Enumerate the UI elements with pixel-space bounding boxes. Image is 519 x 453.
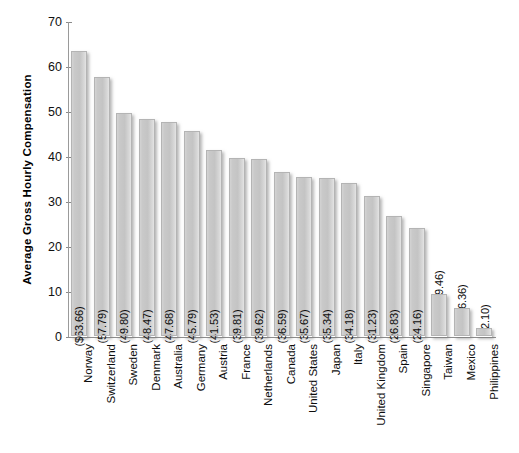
- bar[interactable]: (57.79): [94, 77, 110, 337]
- bar-value-label: (36.59): [276, 309, 287, 343]
- bar-slot: (35.67): [293, 22, 315, 337]
- bar[interactable]: (31.23): [364, 196, 380, 337]
- y-axis-tick-label: 0: [55, 330, 66, 343]
- bar[interactable]: (45.79): [184, 131, 200, 337]
- bar[interactable]: (26.83): [386, 216, 402, 337]
- bar-slot: (41.53): [203, 22, 225, 337]
- bar-value-label: (34.18): [344, 309, 355, 343]
- bar[interactable]: (35.67): [296, 177, 312, 338]
- x-axis-tick: Singapore: [406, 341, 428, 451]
- y-axis-tick-label: 30: [48, 195, 66, 208]
- bar-slot: (6.36): [451, 22, 473, 337]
- x-axis-tick: Australia: [158, 341, 180, 451]
- bar[interactable]: (24.16): [409, 228, 425, 337]
- plot-area: ($63.66)(57.79)(49.80)(48.47)(47.68)(45.…: [68, 22, 496, 337]
- bar-value-label: (31.23): [366, 309, 377, 343]
- bar-value-label: (45.79): [186, 309, 197, 343]
- bar-value-label: (48.47): [141, 309, 152, 343]
- x-axis-tick: Austria: [203, 341, 225, 451]
- bar-slot: (36.59): [271, 22, 293, 337]
- bar[interactable]: (36.59): [274, 172, 290, 337]
- x-axis-tick: Sweden: [113, 341, 135, 451]
- bar[interactable]: [431, 294, 447, 337]
- bar-value-label: (49.80): [119, 309, 130, 343]
- y-axis-tick-label: 20: [48, 240, 66, 253]
- y-axis-tick-label: 50: [48, 105, 66, 118]
- y-axis-tick-label: 10: [48, 285, 66, 298]
- y-axis-tick-group: 706050403020100: [0, 0, 72, 453]
- bar[interactable]: (41.53): [206, 150, 222, 337]
- bar-value-label: (24.16): [411, 309, 422, 343]
- bar-slot: ($63.66): [68, 22, 90, 337]
- x-axis-tick: Philippines: [473, 341, 495, 451]
- bar-slot: (24.16): [406, 22, 428, 337]
- bar-value-label: (57.79): [96, 309, 107, 343]
- x-axis-tick: Italy: [338, 341, 360, 451]
- x-axis-tick: Netherlands: [248, 341, 270, 451]
- bar-slot: (9.46): [428, 22, 450, 337]
- bar-value-label: (47.68): [164, 309, 175, 343]
- x-axis-tick: United Kingdom: [361, 341, 383, 451]
- bar-value-label: (26.83): [389, 309, 400, 343]
- bar[interactable]: (47.68): [161, 122, 177, 337]
- bar-slot: (26.83): [383, 22, 405, 337]
- bar-slot: (39.81): [226, 22, 248, 337]
- bar-slot: (57.79): [91, 22, 113, 337]
- bar[interactable]: (35.34): [319, 178, 335, 337]
- bar-slot: (35.34): [316, 22, 338, 337]
- bar[interactable]: (34.18): [341, 183, 357, 337]
- bar[interactable]: ($63.66): [71, 51, 87, 337]
- y-axis-tick-label: 60: [48, 60, 66, 73]
- y-axis-tick-label: 70: [48, 15, 66, 28]
- y-axis-tick-label: 40: [48, 150, 66, 163]
- bar-slot: (48.47): [136, 22, 158, 337]
- x-axis-tick: Taiwan: [428, 341, 450, 451]
- bar-slot: (45.79): [181, 22, 203, 337]
- x-axis-tick-group: NorwaySwitzerlandSwedenDenmarkAustraliaG…: [68, 341, 496, 451]
- bar-slot: (39.62): [248, 22, 270, 337]
- bar-slot: (2.10): [473, 22, 495, 337]
- x-axis-tick: Denmark: [136, 341, 158, 451]
- bar-value-label: (39.81): [231, 309, 242, 343]
- bar-chart: Average Gross Hourly Compensation 706050…: [0, 0, 519, 453]
- bar-value-label: (39.62): [254, 309, 265, 343]
- x-axis-tick: Norway: [68, 341, 90, 451]
- x-axis-tick-label: Philippines: [489, 344, 501, 400]
- bar[interactable]: (39.81): [229, 158, 245, 337]
- bar[interactable]: (48.47): [139, 119, 155, 337]
- x-axis-tick: Mexico: [451, 341, 473, 451]
- bar-value-label: (35.34): [321, 309, 332, 343]
- x-axis-tick: United States: [293, 341, 315, 451]
- bar[interactable]: (39.62): [251, 159, 267, 337]
- bar-slot: (34.18): [338, 22, 360, 337]
- bar[interactable]: (49.80): [116, 113, 132, 337]
- x-axis-tick: Germany: [181, 341, 203, 451]
- bar-slot: (49.80): [113, 22, 135, 337]
- x-axis-tick: Switzerland: [91, 341, 113, 451]
- bar-slot: (47.68): [158, 22, 180, 337]
- bar[interactable]: [454, 308, 470, 337]
- bar-value-label: (41.53): [209, 309, 220, 343]
- bar-slot: (31.23): [361, 22, 383, 337]
- x-axis-tick: Japan: [316, 341, 338, 451]
- x-axis-tick: Canada: [271, 341, 293, 451]
- x-axis-tick: Spain: [383, 341, 405, 451]
- x-axis-tick: France: [226, 341, 248, 451]
- bar-value-label: (35.67): [299, 309, 310, 343]
- bar[interactable]: [476, 328, 492, 337]
